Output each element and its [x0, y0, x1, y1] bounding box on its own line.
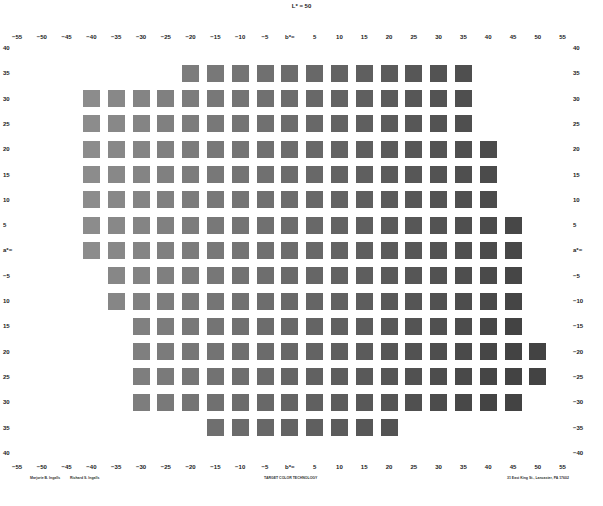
color-patch — [182, 115, 199, 132]
x-tick-bottom: −10 — [235, 464, 245, 470]
color-patch — [83, 115, 100, 132]
color-patch — [331, 90, 348, 107]
color-patch — [480, 318, 497, 335]
color-patch — [455, 65, 472, 82]
color-patch — [232, 115, 249, 132]
color-patch — [505, 293, 522, 310]
color-patch — [157, 217, 174, 234]
color-patch — [108, 267, 125, 284]
color-patch — [306, 166, 323, 183]
color-patch — [182, 293, 199, 310]
y-tick-right: −5 — [573, 273, 580, 279]
color-patch — [430, 65, 447, 82]
color-patch — [381, 141, 398, 158]
x-tick-bottom: −40 — [86, 464, 96, 470]
y-tick-right: 35 — [573, 70, 580, 76]
color-patch — [505, 267, 522, 284]
color-patch — [356, 191, 373, 208]
color-patch — [281, 217, 298, 234]
color-patch — [157, 166, 174, 183]
color-patch — [232, 191, 249, 208]
color-patch — [182, 141, 199, 158]
color-patch — [232, 318, 249, 335]
color-patch — [430, 115, 447, 132]
color-patch — [157, 90, 174, 107]
color-patch — [207, 368, 224, 385]
color-patch — [430, 191, 447, 208]
x-tick-top: 10 — [336, 34, 343, 40]
color-patch — [430, 217, 447, 234]
y-tick-right: −20 — [573, 349, 583, 355]
color-patch — [207, 141, 224, 158]
y-tick-right: 10 — [573, 197, 580, 203]
color-patch — [157, 191, 174, 208]
color-patch — [356, 90, 373, 107]
color-patch — [257, 394, 274, 411]
color-patch — [381, 90, 398, 107]
color-patch — [133, 166, 150, 183]
color-patch — [232, 90, 249, 107]
x-tick-bottom: −25 — [161, 464, 171, 470]
color-patch — [480, 141, 497, 158]
color-patch — [405, 191, 422, 208]
y-tick-right: 40 — [573, 45, 580, 51]
color-patch — [405, 368, 422, 385]
color-patch — [381, 166, 398, 183]
color-patch — [505, 242, 522, 259]
color-patch — [306, 141, 323, 158]
color-patch — [281, 191, 298, 208]
color-patch — [381, 115, 398, 132]
color-patch — [207, 65, 224, 82]
color-patch — [529, 368, 546, 385]
color-patch — [157, 368, 174, 385]
color-patch — [207, 267, 224, 284]
x-tick-bottom: 20 — [386, 464, 393, 470]
x-tick-bottom: b*= — [285, 464, 295, 470]
color-patch — [356, 394, 373, 411]
color-patch — [430, 166, 447, 183]
color-patch — [306, 394, 323, 411]
y-tick-right: −30 — [573, 399, 583, 405]
color-patch — [281, 318, 298, 335]
y-tick-left: 30 — [3, 96, 10, 102]
color-patch — [331, 166, 348, 183]
color-patch — [356, 141, 373, 158]
x-tick-bottom: −5 — [262, 464, 269, 470]
credit-address: 31 East King St., Lancaster, PA 17602 — [507, 476, 569, 480]
color-patch — [257, 343, 274, 360]
y-tick-right: 30 — [573, 96, 580, 102]
color-patch — [455, 115, 472, 132]
color-patch — [306, 90, 323, 107]
color-patch — [356, 293, 373, 310]
color-patch — [232, 419, 249, 436]
color-patch — [430, 318, 447, 335]
x-tick-top: −35 — [111, 34, 121, 40]
color-patch — [405, 394, 422, 411]
color-patch — [381, 419, 398, 436]
x-tick-top: −15 — [210, 34, 220, 40]
y-tick-right: 25 — [573, 121, 580, 127]
color-patch — [381, 394, 398, 411]
x-tick-bottom: −35 — [111, 464, 121, 470]
color-patch — [281, 242, 298, 259]
color-patch — [381, 242, 398, 259]
color-patch — [257, 141, 274, 158]
color-patch — [281, 115, 298, 132]
color-patch — [306, 419, 323, 436]
color-patch — [133, 141, 150, 158]
chart-title: L* = 50 — [0, 3, 603, 9]
x-tick-bottom: −45 — [62, 464, 72, 470]
color-patch — [83, 217, 100, 234]
color-patch — [331, 217, 348, 234]
color-patch — [257, 267, 274, 284]
x-tick-bottom: 50 — [534, 464, 541, 470]
color-patch — [133, 343, 150, 360]
color-patch — [157, 343, 174, 360]
color-patch — [455, 217, 472, 234]
color-patch — [480, 191, 497, 208]
color-patch — [505, 343, 522, 360]
color-patch — [331, 368, 348, 385]
color-patch — [207, 217, 224, 234]
color-patch — [455, 394, 472, 411]
color-patch — [405, 141, 422, 158]
